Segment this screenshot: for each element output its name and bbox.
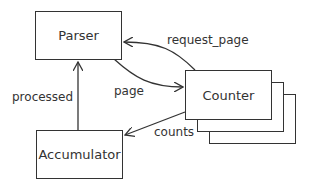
parser-node: Parser bbox=[35, 11, 122, 60]
counter-label: Counter bbox=[203, 88, 255, 103]
edge-label-request-page: request_page bbox=[167, 33, 249, 47]
edge-label-page: page bbox=[114, 84, 144, 98]
accumulator-node: Accumulator bbox=[36, 130, 123, 179]
counter-node: Counter bbox=[185, 70, 272, 120]
edge-page bbox=[114, 59, 183, 87]
parser-label: Parser bbox=[58, 28, 99, 43]
accumulator-label: Accumulator bbox=[38, 147, 120, 162]
edge-label-counts: counts bbox=[154, 125, 194, 139]
edge-label-processed: processed bbox=[12, 90, 73, 104]
